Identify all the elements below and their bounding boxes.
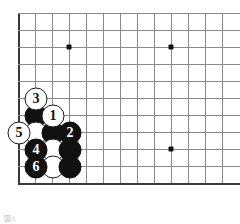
figure-caption: 図5 — [4, 213, 17, 222]
move-number-label: 3 — [33, 92, 40, 106]
grid-line-horizontal — [18, 13, 240, 14]
star-point — [169, 147, 174, 152]
move-number-label: 2 — [67, 126, 74, 140]
grid-line-horizontal — [18, 98, 240, 99]
move-number-label: 4 — [33, 143, 40, 157]
move-number-label: 6 — [33, 160, 40, 174]
stone-black-move-2: 2 — [59, 122, 82, 145]
stone-black-move-6: 6 — [25, 156, 48, 179]
move-number-label: 5 — [16, 126, 23, 140]
move-number-label: 1 — [50, 109, 57, 123]
grid-line-horizontal — [18, 47, 240, 48]
star-point — [169, 45, 174, 50]
grid-line-horizontal — [18, 64, 240, 65]
grid-line-horizontal — [18, 183, 240, 185]
star-point — [67, 45, 72, 50]
grid-line-horizontal — [18, 81, 240, 82]
go-board-diagram: 315246 — [0, 0, 240, 224]
stone-black — [59, 156, 82, 179]
grid-line-horizontal — [18, 30, 240, 31]
